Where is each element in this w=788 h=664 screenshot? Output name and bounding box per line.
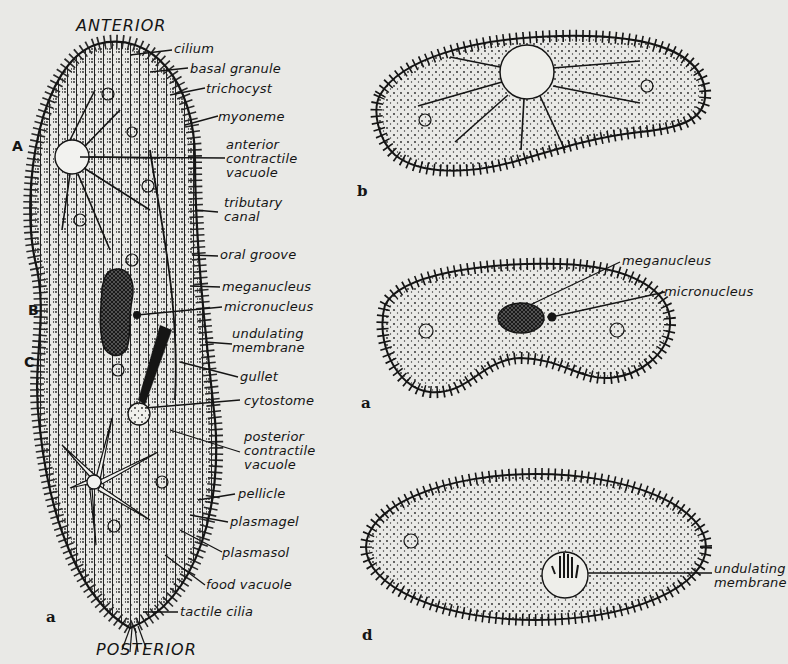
label-gullet: gullet (240, 370, 278, 384)
label-basal-granule: basal granule (190, 62, 281, 76)
label-c-meganucleus: meganucleus (622, 254, 711, 268)
region-marker-b: B (28, 302, 39, 318)
label-tactile-cilia: tactile cilia (180, 605, 253, 619)
label-meganucleus: meganucleus (222, 280, 311, 294)
figure-letter-d: d (362, 626, 373, 644)
label-c-micronucleus: micronucleus (664, 285, 753, 299)
figure-letter-c: a (361, 394, 371, 412)
label-undulating-membrane: undulating membrane (232, 327, 305, 355)
label-food-vacuole: food vacuole (206, 578, 292, 592)
region-marker-c: C (24, 354, 34, 370)
posterior-heading: POSTERIOR (96, 640, 197, 659)
paramecium-diagram (0, 0, 788, 664)
figure-c-paramecium (382, 262, 670, 392)
label-micronucleus: micronucleus (224, 300, 313, 314)
anterior-heading: ANTERIOR (76, 16, 166, 35)
label-tributary-canal: tributary canal (224, 196, 282, 224)
label-posterior-contractile-vacuole: posterior contractile vacuole (244, 430, 315, 472)
region-marker-a: A (12, 138, 23, 154)
figure-letter-main: a (46, 608, 56, 626)
label-oral-groove: oral groove (220, 248, 296, 262)
label-cytostome: cytostome (244, 394, 314, 408)
main-paramecium (30, 42, 216, 652)
label-trichocyst: trichocyst (206, 82, 272, 96)
label-d-undulating-membrane: undulating membrane (714, 562, 787, 590)
label-myoneme: myoneme (218, 110, 285, 124)
label-plasmagel: plasmagel (230, 515, 299, 529)
figure-d-paramecium (366, 474, 712, 620)
figure-b-paramecium (376, 36, 705, 171)
label-plasmasol: plasmasol (222, 546, 289, 560)
label-anterior-contractile-vacuole: anterior contractile vacuole (226, 138, 297, 180)
label-pellicle: pellicle (238, 487, 285, 501)
label-cilium: cilium (174, 42, 214, 56)
figure-letter-b: b (357, 182, 368, 200)
